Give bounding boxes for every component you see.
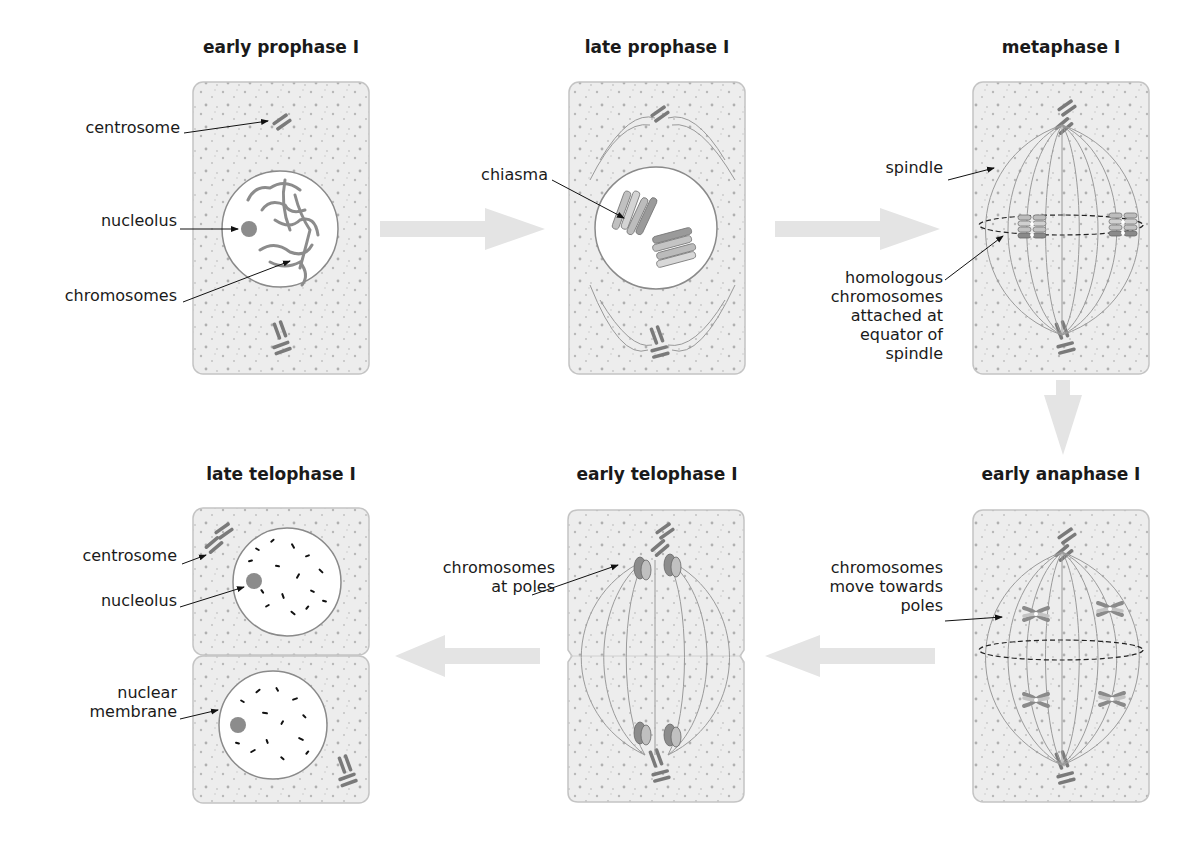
label-nucleolus: nucleolus <box>101 211 177 230</box>
label-chromosomes-at-poles: chromosomes at poles <box>443 558 555 596</box>
label-spindle: spindle <box>885 158 943 177</box>
label-homologous-chromosomes: homologous chromosomes attached at equat… <box>831 268 943 363</box>
stage-title-metaphase: metaphase I <box>951 37 1171 57</box>
cell-early-anaphase <box>945 510 1149 802</box>
label-chromosomes-move: chromosomes move towards poles <box>829 558 943 615</box>
cell-early-telophase <box>532 510 744 802</box>
stage-title-late-telophase: late telophase I <box>171 464 391 484</box>
stage-title-early-telophase: early telophase I <box>547 464 767 484</box>
label-centrosome-2: centrosome <box>82 546 177 565</box>
stage-title-early-anaphase: early anaphase I <box>951 464 1171 484</box>
cell-late-telophase <box>180 508 369 803</box>
cell-early-prophase <box>180 82 369 374</box>
label-nucleolus-2: nucleolus <box>101 591 177 610</box>
cell-late-prophase <box>552 82 745 374</box>
label-nuclear-membrane: nuclear membrane <box>89 683 177 721</box>
cell-metaphase <box>945 82 1149 374</box>
label-chromosomes: chromosomes <box>65 286 177 305</box>
label-centrosome: centrosome <box>85 118 180 137</box>
label-chiasma: chiasma <box>481 165 548 184</box>
stage-title-late-prophase: late prophase I <box>547 37 767 57</box>
stage-title-early-prophase: early prophase I <box>171 37 391 57</box>
